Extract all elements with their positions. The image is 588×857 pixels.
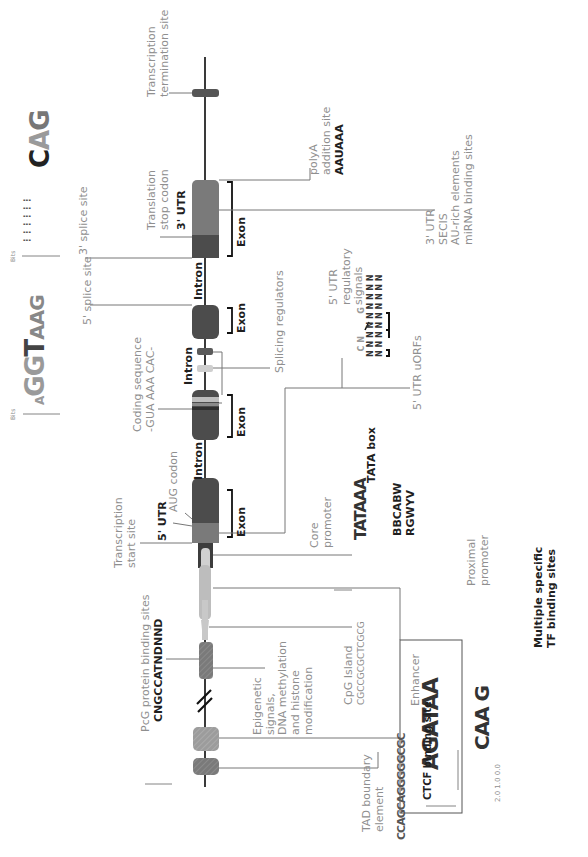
label-intron-1: Intron xyxy=(193,262,206,300)
splice3-logo: CAG xyxy=(25,110,55,168)
termination-site-marker xyxy=(192,89,219,97)
enhancer-axis-ticks: 2.0 1.0 0.0 xyxy=(494,764,502,802)
label-intron-3: Intron xyxy=(193,442,206,480)
tad-boundary-marker xyxy=(193,758,219,775)
label-5utr: 5' UTR xyxy=(157,501,170,541)
label-core-seqs: BBCABW RGWYV xyxy=(392,483,417,536)
label-ctcf: CTCF binding site xyxy=(422,701,434,800)
label-pcg-sites: PcG protein binding sites xyxy=(140,595,153,732)
label-5splice: 5' splice site xyxy=(82,256,95,325)
splicing-regulator-marker xyxy=(197,348,213,355)
label-aug-codon: AUG codon xyxy=(168,451,181,512)
splice5-logo: AGGTAAG xyxy=(20,295,50,405)
label-3utr-elements: 3' UTR SECIS AU-rich elements miRNA bind… xyxy=(425,134,476,245)
stemloop-logo: C N G N N N N N N N N N N N N N N N N N … xyxy=(357,274,384,357)
label-transcription-termination: Transcription termination site xyxy=(146,10,171,97)
exon-first xyxy=(192,478,219,543)
label-core-promoter: Core promoter xyxy=(309,497,334,548)
ctcf-logo: CCAGCAGGGGGCGC xyxy=(395,733,408,840)
label-tata-box: TATA box xyxy=(366,427,379,483)
splice5-axis-label: Bits xyxy=(10,409,17,420)
enhancer-marker xyxy=(193,727,219,751)
label-exon-mid: Exon xyxy=(236,303,249,333)
label-polya: polyA addition site xyxy=(308,107,333,175)
enhancer-logo-2: CAA G xyxy=(470,686,494,750)
exon-3prime xyxy=(192,180,219,258)
label-epigenetic: Epigenetic signals, DNA methylation and … xyxy=(252,641,315,735)
label-translation-stop: Translation stop codon xyxy=(146,169,171,230)
label-pcg-seq: CNGCCATNDNND xyxy=(153,619,166,723)
label-tf-binding: Multiple specific TF binding sites xyxy=(533,547,558,648)
tata-logo: TATAAA xyxy=(351,478,370,540)
label-exon-first: Exon xyxy=(236,507,249,537)
label-transcription-start: Transcription start site xyxy=(113,497,138,568)
splice3-axis-label: Bits xyxy=(10,251,17,262)
gene-structure-diagram: Transcription termination site Translati… xyxy=(0,0,588,857)
label-coding-sequence: Coding sequence -GUA AAA CAC- xyxy=(132,337,157,432)
label-cpg-island: CpG Island CGCCGCGCTCGCG xyxy=(343,621,366,705)
label-exon-3: Exon xyxy=(236,217,249,247)
label-tad-boundary: TAD boundary element xyxy=(361,754,386,832)
splice3-logo-small: ⋮⋮⋮⋮⋮⋮ xyxy=(22,197,32,245)
exon-coding xyxy=(192,390,219,440)
pcg-binding-site-marker xyxy=(199,642,213,679)
label-exon-coding: Exon xyxy=(236,407,249,437)
exon-middle xyxy=(192,305,219,339)
stemloop-bracket-icon xyxy=(386,313,389,330)
label-5utr-uorfs: 5' UTR uORFs xyxy=(412,335,425,410)
promoter-region xyxy=(198,543,213,640)
label-3splice: 3' splice site xyxy=(78,186,91,255)
label-proximal-promoter: Proximal promoter xyxy=(466,535,491,586)
label-splicing-regulators: Splicing regulators xyxy=(274,270,287,373)
label-polya-seq: AAUAAA xyxy=(334,124,347,175)
label-3utr: 3' UTR xyxy=(176,190,189,230)
label-intron-2: Intron xyxy=(183,347,196,385)
